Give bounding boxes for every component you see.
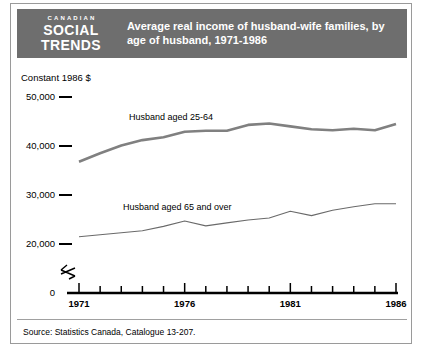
- plot-area: Constant 1986 $ 020,00030,00040,00050,00…: [11, 4, 413, 345]
- figure-panel: CANADIAN SOCIAL TRENDS Average real inco…: [10, 3, 412, 344]
- series-line-1: [79, 124, 396, 162]
- chart-svg: [11, 4, 413, 345]
- source-divider: [17, 319, 407, 320]
- axis-break-icon: [61, 265, 75, 279]
- source-note: Source: Statistics Canada, Catalogue 13-…: [23, 327, 195, 337]
- series-line-2: [79, 204, 396, 237]
